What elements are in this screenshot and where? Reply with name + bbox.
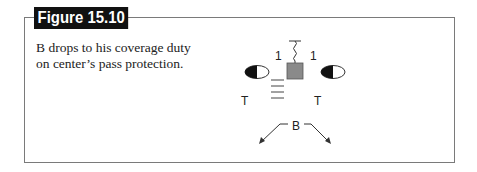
tackle-label-right: T <box>314 94 322 108</box>
back-label: B <box>292 119 300 133</box>
arrowhead-left-icon <box>259 137 265 144</box>
snap-squiggle-icon <box>289 41 301 63</box>
tackle-left-oval-icon <box>245 66 269 79</box>
tackle-label-left: T <box>241 94 249 108</box>
arrowhead-right-icon <box>325 137 331 144</box>
gap-label-left: 1 <box>275 49 282 63</box>
blocking-lines-icon <box>271 80 284 98</box>
play-diagram: 1 1 T T B <box>0 0 477 172</box>
tackle-right-oval-icon <box>321 66 345 79</box>
center-square-icon <box>287 63 303 79</box>
gap-label-right: 1 <box>310 49 317 63</box>
